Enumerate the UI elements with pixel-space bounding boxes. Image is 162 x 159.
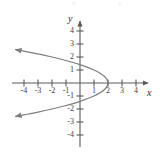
y-tick-label-1: 1: [64, 66, 74, 74]
y-axis: [77, 21, 84, 147]
x-tick-label-1: 1: [89, 87, 99, 95]
x-axis-label: x: [147, 88, 151, 98]
y-tick-label-2: 2: [64, 53, 74, 61]
x-tick-label-2: 2: [103, 87, 113, 95]
x-tick-label--2: -2: [46, 87, 58, 95]
y-tick-label--2: -2: [61, 105, 74, 113]
y-tick-label--4: -4: [61, 131, 74, 139]
x-tick-label--4: -4: [18, 87, 30, 95]
x-tick-label-4: 4: [131, 87, 141, 95]
y-axis-label: y: [68, 14, 72, 24]
y-tick-label--1: -1: [61, 92, 74, 100]
parabola-figure: g x: [0, 0, 162, 159]
x-tick-label--3: -3: [32, 87, 44, 95]
y-tick-label-4: 4: [64, 27, 74, 35]
y-tick-label-3: 3: [64, 40, 74, 48]
x-tick-label-3: 3: [117, 87, 127, 95]
y-tick-label--3: -3: [61, 118, 74, 126]
plot-canvas: [0, 0, 162, 159]
